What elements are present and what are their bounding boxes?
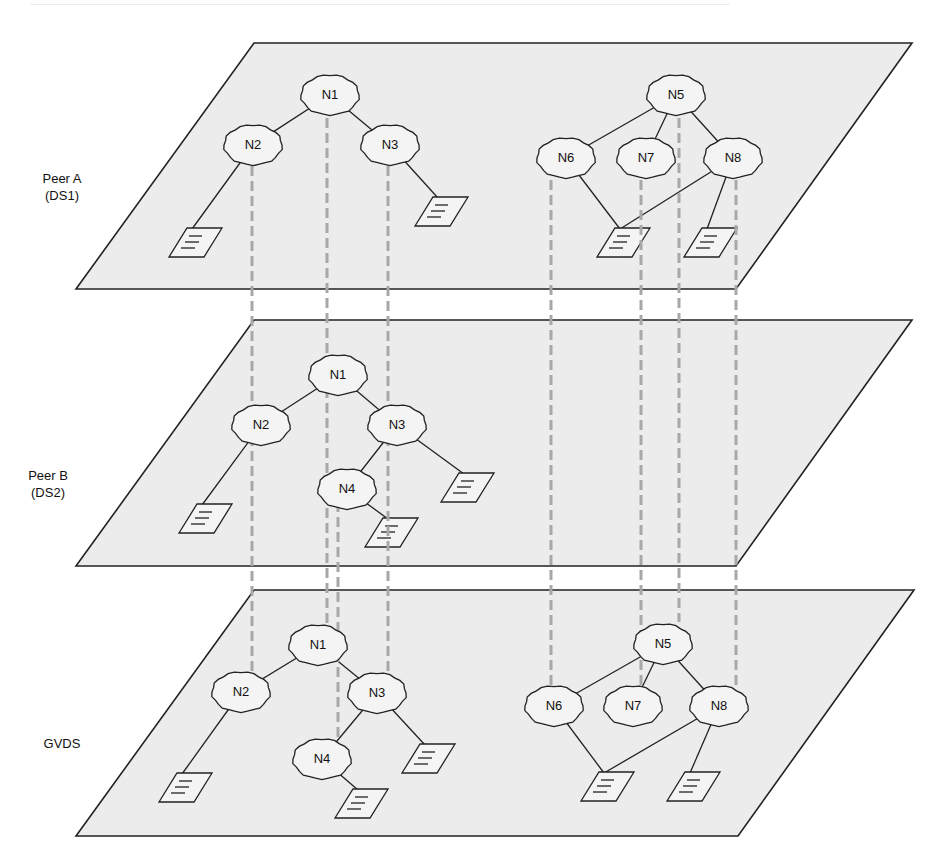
node-n1: N1	[301, 75, 359, 116]
layered-dataspace-diagram: N1N2N3N5N6N7N8N1N2N3N4N1N2N3N4N5N6N7N8	[0, 0, 949, 865]
node-n8: N8	[704, 138, 762, 179]
node-n1: N1	[289, 625, 347, 666]
node-n7: N7	[604, 686, 662, 727]
node-n3: N3	[368, 405, 426, 446]
svg-text:N1: N1	[310, 637, 327, 652]
node-n2: N2	[232, 405, 290, 446]
svg-text:N6: N6	[546, 698, 563, 713]
node-n4: N4	[293, 739, 351, 780]
node-n6: N6	[537, 138, 595, 179]
node-n6: N6	[525, 686, 583, 727]
node-n5: N5	[634, 624, 692, 665]
svg-text:N1: N1	[322, 87, 339, 102]
svg-text:N4: N4	[314, 751, 331, 766]
node-n7: N7	[617, 138, 675, 179]
svg-text:N3: N3	[369, 685, 386, 700]
svg-text:N3: N3	[389, 417, 406, 432]
svg-text:N8: N8	[725, 150, 742, 165]
node-n5: N5	[647, 75, 705, 116]
svg-text:N4: N4	[339, 481, 356, 496]
node-n3: N3	[348, 673, 406, 714]
svg-text:N1: N1	[330, 367, 347, 382]
node-n2: N2	[224, 125, 282, 166]
svg-text:N3: N3	[382, 137, 399, 152]
svg-text:N2: N2	[253, 417, 270, 432]
svg-text:N7: N7	[638, 150, 655, 165]
layer-label-peer-b: Peer B (DS2)	[8, 467, 88, 501]
svg-text:N7: N7	[625, 698, 642, 713]
svg-text:N8: N8	[711, 698, 728, 713]
node-n4: N4	[318, 469, 376, 510]
svg-text:N2: N2	[245, 137, 262, 152]
node-n8: N8	[690, 686, 748, 727]
svg-text:N5: N5	[668, 87, 685, 102]
node-n2: N2	[212, 672, 270, 713]
svg-text:N6: N6	[558, 150, 575, 165]
layer-planes	[76, 43, 914, 836]
node-n1: N1	[309, 355, 367, 396]
svg-text:N5: N5	[655, 636, 672, 651]
plane-gvds	[76, 590, 914, 836]
layer-label-peer-a: Peer A (DS1)	[22, 170, 102, 204]
svg-text:N2: N2	[233, 684, 250, 699]
layer-label-gvds: GVDS	[22, 735, 102, 752]
node-n3: N3	[361, 125, 419, 166]
